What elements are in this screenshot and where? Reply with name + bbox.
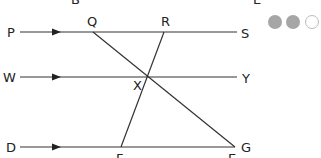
label-F: F — [116, 151, 123, 158]
progress-dot-filled — [268, 15, 282, 29]
label-top-right-cut: E — [253, 0, 261, 7]
label-P: P — [7, 25, 15, 40]
label-top-left-cut: B — [71, 0, 80, 7]
label-S: S — [241, 26, 249, 41]
label-Q: Q — [87, 14, 97, 29]
label-D: D — [6, 140, 16, 155]
arrow-icon — [52, 144, 61, 151]
progress-dot-filled — [286, 15, 300, 29]
label-W: W — [3, 70, 16, 85]
label-Y: Y — [241, 71, 250, 86]
arrow-icon — [52, 29, 61, 36]
label-E: E — [228, 151, 236, 158]
progress-dots — [268, 15, 319, 29]
geometry-diagram: B E P Q R S W X Y D F E G — [0, 0, 321, 158]
label-R: R — [161, 14, 170, 29]
label-G: G — [241, 140, 251, 155]
arrow-icon — [52, 74, 61, 81]
transversal-RF — [121, 32, 164, 147]
label-X: X — [133, 78, 142, 93]
progress-dot-empty — [306, 16, 319, 29]
line-PS — [20, 29, 237, 36]
line-WY — [20, 74, 237, 81]
line-DG — [20, 144, 235, 151]
transversal-QE — [93, 32, 235, 147]
